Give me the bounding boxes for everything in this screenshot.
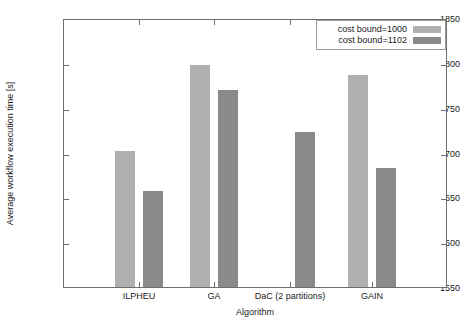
x-tick-mark-top-dac [290,20,291,25]
x-tick-mark-top-ilpheu [139,20,140,25]
y-tick-mark-1750 [64,110,69,111]
legend-label-cost1102: cost bound=1102 [338,35,407,46]
bar-gain-cost1000 [348,75,368,287]
x-tick-mark-gain [372,282,373,287]
x-tick-mark-top-ga [214,20,215,25]
bar-ilpheu-cost1000 [115,151,135,287]
y-tick-mark-1600 [64,244,69,245]
x-tick-label-gain: GAIN [361,291,383,302]
x-axis-title: Algorithm [63,307,447,318]
legend-swatch-cost1102 [413,37,441,44]
bar-gain-cost1102 [376,168,396,287]
legend-label-cost1000: cost bound=1000 [338,24,407,35]
y-tick-mark-right-1650 [441,199,446,200]
y-axis-title: Average workflow execution time [s] [3,19,17,288]
x-tick-label-dac: DaC (2 partitions) [255,291,326,302]
x-tick-mark-dac [290,282,291,287]
legend-swatch-cost1000 [413,26,441,33]
y-tick-mark-1650 [64,199,69,200]
x-tick-label-ga: GA [207,291,220,302]
bar-ilpheu-cost1102 [143,191,163,287]
legend-entry-cost1102: cost bound=1102 [317,35,441,46]
bar-ga-cost1000 [190,65,210,287]
y-tick-mark-right-1800 [441,65,446,66]
y-tick-mark-1800 [64,65,69,66]
legend: cost bound=1000 cost bound=1102 [316,20,446,50]
x-tick-mark-ilpheu [139,282,140,287]
bar-dac-cost1102 [295,132,315,287]
y-tick-mark-right-1750 [441,110,446,111]
x-tick-mark-ga [214,282,215,287]
x-tick-label-ilpheu: ILPHEU [123,291,156,302]
bar-chart-figure: Average workflow execution time [s] 1850… [0,0,460,333]
legend-entry-cost1000: cost bound=1000 [317,24,441,35]
bar-ga-cost1102 [218,90,238,287]
y-tick-mark-right-1600 [441,244,446,245]
plot-area [63,19,447,288]
y-tick-mark-right-1700 [441,155,446,156]
y-tick-mark-1700 [64,155,69,156]
